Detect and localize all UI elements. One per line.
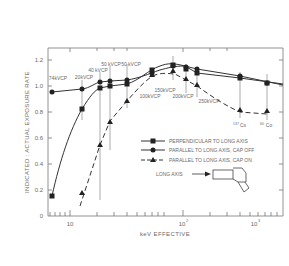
svg-text:Co: Co — [266, 122, 273, 128]
legend: PERPENDICULAR TO LONG AXIS PARALLEL TO L… — [141, 138, 254, 163]
svg-text:0.8: 0.8 — [35, 109, 44, 115]
svg-text:50 kVCP: 50 kVCP — [121, 61, 141, 67]
svg-text:PARALLEL TO LONG AXIS, CAP ON: PARALLEL TO LONG AXIS, CAP ON — [169, 157, 252, 163]
svg-text:0.6: 0.6 — [35, 135, 44, 141]
svg-text:2: 2 — [186, 218, 189, 223]
svg-text:PARALLEL TO LONG AXIS, CAP OFF: PARALLEL TO LONG AXIS, CAP OFF — [169, 147, 254, 153]
annotations: 74kVCP 20kVCP 40 kVCP 50 kVCP 50 kVCP 10… — [49, 61, 273, 128]
svg-text:137: 137 — [233, 122, 239, 126]
svg-text:1.0: 1.0 — [35, 83, 44, 89]
instrument-icon — [213, 168, 249, 192]
svg-text:74kVCP: 74kVCP — [49, 75, 68, 81]
y-tick-labels: 0 0.2 0.4 0.6 0.8 1.0 1.2 — [35, 57, 44, 219]
series-perpendicular — [50, 63, 284, 199]
svg-text:200kVCP: 200kVCP — [172, 93, 194, 99]
svg-text:0.4: 0.4 — [35, 161, 44, 167]
svg-text:250kVCP: 250kVCP — [198, 98, 220, 104]
svg-text:LONG AXIS: LONG AXIS — [156, 171, 183, 177]
svg-text:60: 60 — [260, 122, 264, 126]
svg-text:20kVCP: 20kVCP — [75, 74, 94, 80]
svg-text:50 kVCP: 50 kVCP — [101, 61, 121, 67]
svg-text:40 kVCP: 40 kVCP — [88, 67, 108, 73]
x-axis-label: keV EFFECTIVE — [140, 231, 190, 237]
svg-text:3: 3 — [258, 218, 261, 223]
svg-text:0: 0 — [40, 213, 44, 219]
x-tick-labels: 10 10 2 10 3 — [67, 218, 261, 227]
svg-text:0.2: 0.2 — [35, 187, 44, 193]
svg-text:100kVCP: 100kVCP — [139, 93, 161, 99]
legend-item-cap-on: PARALLEL TO LONG AXIS, CAP ON — [141, 157, 252, 163]
svg-text:1.2: 1.2 — [35, 57, 44, 63]
y-axis-label: INDICATED : ACTUAL EXPOSURE RATE — [24, 71, 30, 193]
legend-item-perpendicular: PERPENDICULAR TO LONG AXIS — [141, 138, 248, 144]
long-axis-inset: LONG AXIS — [156, 168, 249, 192]
svg-text:Cs: Cs — [240, 122, 247, 128]
svg-text:PERPENDICULAR TO LONG AXIS: PERPENDICULAR TO LONG AXIS — [169, 138, 248, 144]
chart: 0 0.2 0.4 0.6 0.8 1.0 1.2 10 10 2 10 3 I… — [0, 0, 289, 266]
svg-text:10: 10 — [67, 221, 74, 227]
legend-item-cap-off: PARALLEL TO LONG AXIS, CAP OFF — [141, 147, 254, 153]
